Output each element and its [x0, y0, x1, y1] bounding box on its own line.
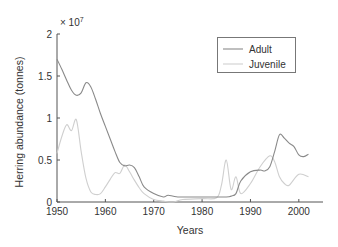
y-axis-label: Herring abundance (tonnes): [13, 57, 25, 188]
x-tick-label: 1980: [191, 206, 214, 217]
x-tick-label: 1990: [239, 206, 262, 217]
y-multiplier: × 107: [60, 16, 84, 28]
x-tick-label: 1950: [46, 206, 69, 217]
legend-label-adult: Adult: [249, 44, 272, 55]
y-tick-label: 0: [46, 197, 52, 208]
x-tick-label: 1960: [94, 206, 117, 217]
y-tick-label: 2: [46, 29, 52, 40]
x-axis-label: Years: [177, 224, 203, 236]
x-tick-label: 2000: [288, 206, 311, 217]
line-chart: 19501960197019801990200000.511.52× 107Ye…: [0, 0, 338, 247]
series-line-juvenile: [57, 119, 308, 202]
legend: AdultJuvenile: [218, 38, 296, 73]
y-tick-label: 1: [46, 113, 52, 124]
legend-label-juvenile: Juvenile: [249, 59, 286, 70]
y-tick-label: 1.5: [38, 71, 52, 82]
x-tick-label: 1970: [143, 206, 166, 217]
series-line-adult: [57, 59, 308, 197]
y-tick-label: 0.5: [38, 155, 52, 166]
data-lines: [57, 59, 308, 202]
